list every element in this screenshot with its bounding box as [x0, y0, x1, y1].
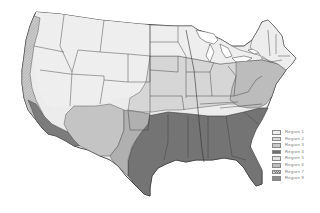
- legend-item-region-5: Region 5: [272, 155, 318, 162]
- region-appalachian: [230, 60, 286, 108]
- legend-item-region-6: Region 6: [272, 162, 318, 169]
- legend-swatch-2: [272, 137, 281, 142]
- legend-item-region-1: Region 1: [272, 129, 318, 136]
- legend-label: Region 2: [285, 136, 304, 143]
- legend-swatch-6: [272, 163, 281, 168]
- legend-item-region-3: Region 3: [272, 142, 318, 149]
- legend-label: Region 1: [285, 129, 304, 136]
- legend-label: Region 8: [285, 175, 304, 182]
- legend-swatch-7: [272, 170, 281, 175]
- legend-swatch-4: [272, 150, 281, 155]
- legend-label: Region 3: [285, 142, 304, 149]
- legend-swatch-8: [272, 176, 281, 181]
- region-southwest-mid: [64, 104, 124, 156]
- region-west-dotted: [34, 12, 150, 108]
- legend-item-region-2: Region 2: [272, 136, 318, 143]
- legend-swatch-3: [272, 143, 281, 148]
- legend-label: Region 4: [285, 149, 304, 156]
- legend-label: Region 6: [285, 162, 304, 169]
- legend: Region 1 Region 2 Region 3 Region 4 Regi…: [272, 129, 318, 182]
- legend-item-region-7: Region 7: [272, 169, 318, 176]
- legend-item-region-8: Region 8: [272, 175, 318, 182]
- legend-label: Region 7: [285, 169, 304, 176]
- legend-swatch-5: [272, 156, 281, 161]
- legend-item-region-4: Region 4: [272, 149, 318, 156]
- legend-swatch-1: [272, 130, 281, 135]
- legend-label: Region 5: [285, 155, 304, 162]
